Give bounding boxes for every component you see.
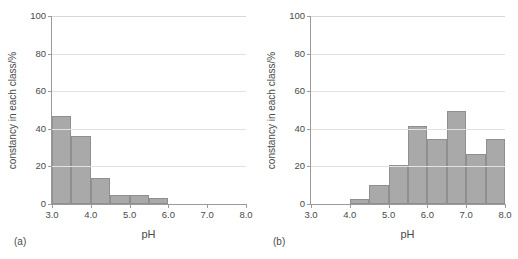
y-tick-label-80-b: 80 [294,49,305,59]
x-tick-mark-7.0-a [207,204,208,208]
x-tick-label-8.0-a: 8.0 [239,210,252,220]
x-tick-mark-7.0-b [466,204,467,208]
x-tick-label-8.0-b: 8.0 [498,210,511,220]
x-axis-label-b: pH [310,228,505,240]
x-tick-label-3.0-a: 3.0 [45,210,58,220]
x-tick-label-5.0-b: 5.0 [382,210,395,220]
y-tick-mark-40-b [307,129,311,130]
gridline-y-100-b [311,16,505,17]
histogram-bar [149,198,168,204]
y-tick-label-60-a: 60 [35,86,46,96]
y-tick-label-20-b: 20 [294,162,305,172]
histogram-bar [408,126,427,204]
panel-tag-b: (b) [273,236,285,247]
x-tick-mark-3.0-b [311,204,312,208]
y-tick-label-40-a: 40 [35,124,46,134]
x-tick-mark-8.0-a [246,204,247,208]
x-tick-label-4.0-b: 4.0 [343,210,356,220]
x-tick-label-7.0-b: 7.0 [460,210,473,220]
histogram-bar [130,195,149,204]
histogram-bar [71,136,90,204]
x-tick-mark-6.0-a [168,204,169,208]
histogram-bar [389,165,408,204]
histogram-bar [466,154,485,204]
gridline-y-60-b [311,91,505,92]
y-axis-label-b: constancy in each class/% [265,16,279,205]
gridline-y-80-a [52,54,246,55]
x-tick-label-3.0-b: 3.0 [304,210,317,220]
y-axis-label-a: constancy in each class/% [6,16,20,205]
y-tick-mark-20-b [307,166,311,167]
gridline-y-20-a [52,166,246,167]
x-tick-mark-5.0-a [130,204,131,208]
histogram-bar [350,199,369,204]
x-tick-mark-4.0-b [350,204,351,208]
y-tick-mark-60-b [307,91,311,92]
histogram-bar [369,185,388,204]
x-tick-mark-4.0-a [91,204,92,208]
histogram-bar [447,111,466,204]
x-tick-label-5.0-a: 5.0 [123,210,136,220]
y-tick-mark-60-a [48,91,52,92]
histogram-bar [110,195,129,204]
plot-area-b: 0204060801003.04.05.06.07.08.0 [310,16,505,205]
y-tick-mark-100-a [48,16,52,17]
bars-container-b [311,16,505,204]
gridline-y-40-a [52,129,246,130]
x-tick-mark-5.0-b [389,204,390,208]
gridline-y-40-b [311,129,505,130]
x-tick-label-4.0-a: 4.0 [84,210,97,220]
x-axis-label-a: pH [51,228,246,240]
gridline-y-60-a [52,91,246,92]
gridline-y-80-b [311,54,505,55]
bars-container-a [52,16,246,204]
y-tick-mark-40-a [48,129,52,130]
y-tick-label-100-a: 100 [30,11,46,21]
figure-histogram-pair: constancy in each class/% 0204060801003.… [0,0,518,259]
y-tick-mark-80-a [48,54,52,55]
x-tick-label-7.0-a: 7.0 [201,210,214,220]
x-tick-mark-8.0-b [505,204,506,208]
y-tick-mark-80-b [307,54,311,55]
gridline-y-20-b [311,166,505,167]
histogram-bar [427,139,446,204]
y-tick-label-0-a: 0 [41,199,46,209]
panel-a: constancy in each class/% 0204060801003.… [0,0,259,259]
y-tick-mark-100-b [307,16,311,17]
histogram-bar [486,139,505,204]
x-tick-mark-6.0-b [427,204,428,208]
y-tick-label-0-b: 0 [300,199,305,209]
gridline-y-100-a [52,16,246,17]
panel-b: constancy in each class/% 0204060801003.… [259,0,518,259]
y-tick-label-40-b: 40 [294,124,305,134]
y-tick-label-100-b: 100 [289,11,305,21]
histogram-bar [91,178,110,204]
x-tick-label-6.0-a: 6.0 [162,210,175,220]
plot-area-a: 0204060801003.04.05.06.07.08.0 [51,16,246,205]
x-tick-label-6.0-b: 6.0 [421,210,434,220]
y-tick-label-80-a: 80 [35,49,46,59]
panel-tag-a: (a) [14,236,26,247]
y-tick-label-60-b: 60 [294,86,305,96]
y-tick-mark-20-a [48,166,52,167]
y-tick-label-20-a: 20 [35,162,46,172]
x-tick-mark-3.0-a [52,204,53,208]
